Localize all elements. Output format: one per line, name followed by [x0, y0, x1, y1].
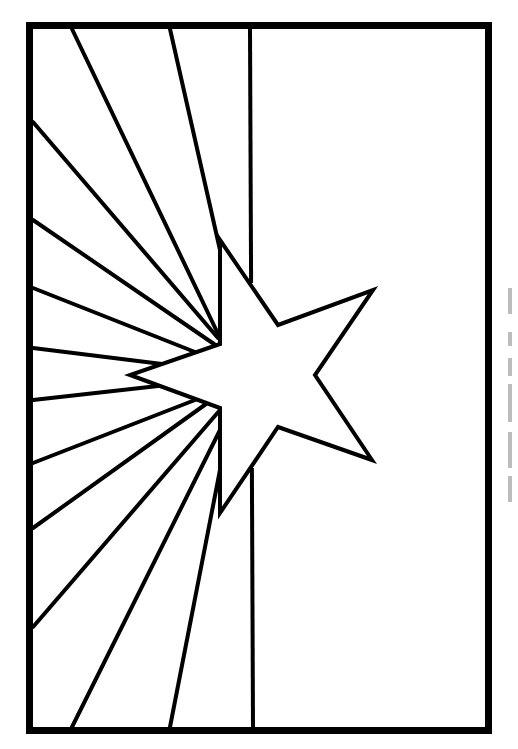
- sun-ray: [33, 348, 162, 364]
- edge-text-fragment: [508, 332, 512, 346]
- sun-ray: [33, 386, 158, 400]
- edge-text-fragment: [508, 384, 512, 422]
- sun-ray: [33, 288, 195, 352]
- coloring-artwork: [0, 0, 518, 749]
- sun-ray: [72, 29, 220, 338]
- sun-ray: [170, 29, 220, 250]
- edge-text-fragment: [508, 476, 512, 502]
- sun-ray: [170, 470, 220, 727]
- sun-ray: [33, 410, 220, 627]
- divider-line-top: [250, 29, 251, 283]
- edge-text-fragment: [508, 432, 512, 468]
- edge-text-fragment: [508, 288, 512, 314]
- divider-line-bottom: [252, 468, 253, 727]
- cropped-edge-caption: [508, 280, 518, 500]
- edge-text-fragment: [508, 358, 512, 376]
- sun-ray: [33, 122, 218, 338]
